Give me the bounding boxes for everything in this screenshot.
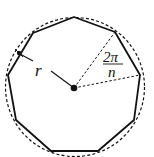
radius-line-inner [51,71,74,88]
polygon-circle-diagram: r 2π n [0,0,154,157]
angle-denominator: n [108,64,116,80]
radius-label: r [35,61,42,80]
angle-numerator: 2π [103,49,119,65]
regular-polygon [8,17,140,151]
radius-line-outer [20,54,33,61]
dashed-radius-2 [74,75,140,88]
center-dot [71,85,78,92]
